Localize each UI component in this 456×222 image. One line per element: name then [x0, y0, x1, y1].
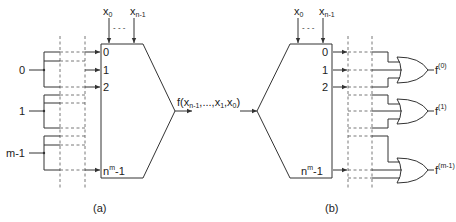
input-label-2: 2	[103, 81, 109, 93]
or-output-label-m-1: f(m-1)	[435, 162, 455, 176]
select-label-xn1-b: xn-1	[319, 5, 335, 18]
input-label-0: 0	[103, 46, 109, 58]
input-label-1: 1	[103, 64, 109, 76]
mux-shape-a	[101, 44, 175, 178]
demux-shape-b	[257, 44, 332, 178]
select-label-x0-b: x0	[294, 5, 304, 18]
select-label-xn1-a: xn-1	[130, 5, 146, 18]
output-label-2: 2	[322, 81, 328, 93]
source-label-m-1: m-1	[6, 147, 25, 159]
output-function-label: f(xn-1,...,x1,x0)	[177, 96, 240, 109]
panel-a-multiplexer: x0 xn-1 - - - 0 1 2 nm-1 0 1	[6, 5, 240, 214]
source-label-1: 1	[19, 105, 25, 117]
caption-b: (b)	[325, 202, 338, 214]
caption-a: (a)	[93, 202, 106, 214]
panel-b-demultiplexer: x0 xn-1 - - - 0 1 2 nm-1 f(0) f(1)	[240, 5, 455, 214]
or-output-label-1: f(1)	[435, 103, 447, 117]
output-label-1: 1	[322, 64, 328, 76]
output-label-0: 0	[322, 46, 328, 58]
or-output-label-0: f(0)	[435, 62, 447, 76]
input-label-last: nm-1	[103, 164, 125, 177]
output-label-last: nm-1	[301, 164, 323, 177]
ellipsis-a: - - -	[113, 23, 126, 32]
diagram-canvas: x0 xn-1 - - - 0 1 2 nm-1 0 1	[0, 0, 456, 222]
ellipsis-b: - - -	[302, 23, 315, 32]
source-label-0: 0	[19, 64, 25, 76]
select-label-x0-a: x0	[103, 5, 113, 18]
